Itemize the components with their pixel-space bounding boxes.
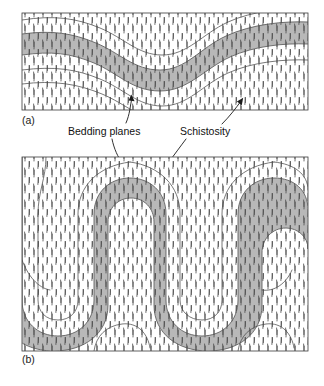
schistosity-label: Schistosity xyxy=(180,125,231,137)
panel-a-label: (a) xyxy=(22,114,35,126)
bedding-planes-label: Bedding planes xyxy=(68,125,140,137)
schistosity-dashes-b-2 xyxy=(22,157,308,351)
panel-b-label: (b) xyxy=(22,353,35,365)
panel-a: (a) xyxy=(22,9,308,126)
schistosity-dashes-a-2 xyxy=(22,13,308,110)
panel-a-content xyxy=(22,9,308,120)
panel-b: (b) xyxy=(22,157,308,365)
figure-root: (a) Bedding planes Schistosity xyxy=(0,0,324,386)
geology-figure: (a) Bedding planes Schistosity xyxy=(0,0,324,386)
panel-b-content xyxy=(22,157,308,351)
